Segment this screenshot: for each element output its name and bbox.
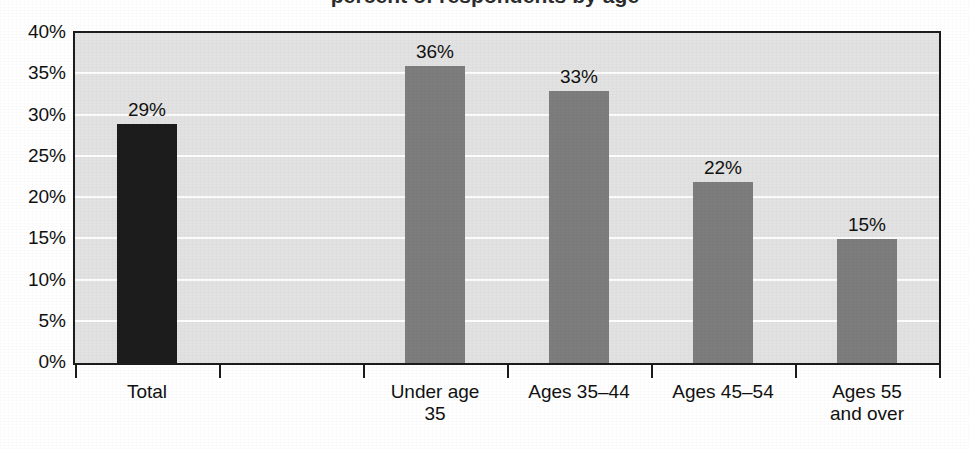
x-tick <box>651 365 653 378</box>
y-tick-label: 40% <box>4 21 66 43</box>
x-category-label: Total <box>75 381 219 403</box>
bar-value-label: 29% <box>87 99 207 121</box>
x-category-label: Under age 35 <box>363 381 507 425</box>
bar <box>117 124 177 363</box>
y-tick-label: 5% <box>4 310 66 332</box>
y-tick-label: 25% <box>4 145 66 167</box>
bar <box>405 66 465 363</box>
bar-value-label: 15% <box>807 214 927 236</box>
gridline <box>75 155 939 157</box>
x-tick <box>363 365 365 378</box>
bar <box>549 91 609 363</box>
x-category-label: Ages 45–54 <box>651 381 795 403</box>
bar <box>837 239 897 363</box>
x-tick <box>507 365 509 378</box>
x-category-label: Ages 35–44 <box>507 381 651 403</box>
x-category-label: Ages 55 and over <box>795 381 939 425</box>
x-tick <box>795 365 797 378</box>
gridline <box>75 320 939 322</box>
x-tick <box>939 365 941 378</box>
y-tick-label: 0% <box>4 351 66 373</box>
y-axis: 0%5%10%15%20%25%30%35%40% <box>0 0 66 449</box>
y-tick-label: 30% <box>4 104 66 126</box>
bar <box>693 182 753 364</box>
gridline <box>75 72 939 74</box>
gridline <box>75 279 939 281</box>
y-tick-label: 15% <box>4 227 66 249</box>
bar-value-label: 22% <box>663 157 783 179</box>
y-tick-label: 20% <box>4 186 66 208</box>
chart-page: percent of respondents by age 0%5%10%15%… <box>0 0 970 449</box>
plot-area <box>73 31 941 365</box>
chart-title-remnant: percent of respondents by age <box>0 0 970 10</box>
x-tick <box>219 365 221 378</box>
gridline <box>75 237 939 239</box>
bar-value-label: 33% <box>519 66 639 88</box>
y-tick-label: 35% <box>4 62 66 84</box>
y-tick-label: 10% <box>4 269 66 291</box>
plot-inner <box>75 33 939 363</box>
x-tick <box>75 365 77 378</box>
gridline <box>75 196 939 198</box>
bar-value-label: 36% <box>375 41 495 63</box>
